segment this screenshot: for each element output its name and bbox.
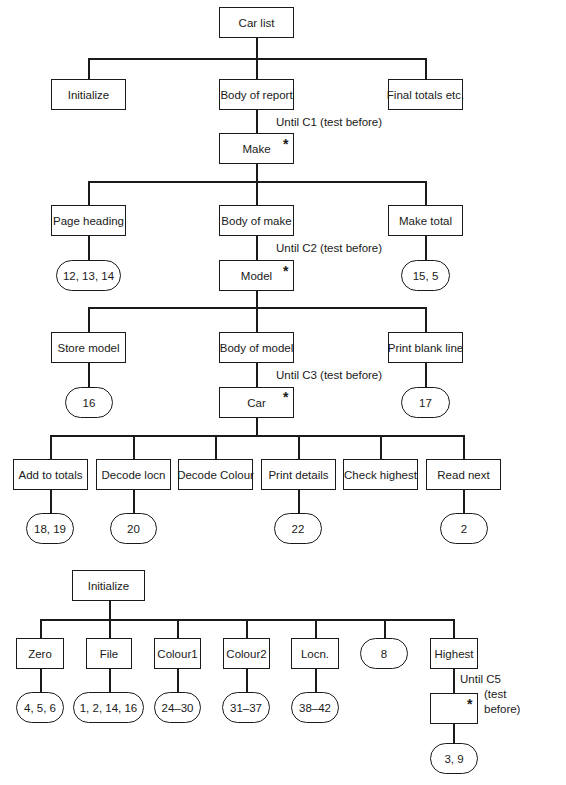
connector	[453, 668, 455, 693]
node-print-blank-line: Print blank line	[388, 332, 463, 363]
connector	[133, 489, 135, 513]
connector	[256, 291, 258, 332]
node-body-of-model: Body of model	[219, 332, 294, 363]
node-highest: Highest	[430, 638, 478, 669]
connector	[315, 668, 317, 693]
connector	[463, 489, 465, 513]
node-initialize-detail: Initialize	[72, 570, 145, 601]
node-zero: Zero	[16, 638, 64, 669]
connector	[133, 435, 135, 459]
iteration-star-icon: *	[467, 697, 472, 711]
connector	[425, 181, 427, 205]
oval-38-42: 38–42	[291, 692, 339, 723]
connector	[298, 435, 300, 459]
connector	[50, 435, 464, 437]
connector	[463, 435, 465, 459]
connector	[256, 236, 258, 260]
connector	[177, 668, 179, 693]
connector	[88, 362, 90, 387]
connector	[88, 58, 426, 60]
node-read-next: Read next	[426, 459, 501, 490]
node-file: File	[86, 638, 132, 669]
node-print-details: Print details	[261, 459, 336, 490]
node-colour1: Colour1	[154, 638, 201, 669]
connector	[453, 723, 455, 743]
oval-4-5-6: 4, 5, 6	[16, 692, 64, 723]
iteration-star-icon: *	[283, 390, 288, 404]
node-decode-locn: Decode locn	[96, 459, 171, 490]
connector	[425, 236, 427, 260]
oval-1-2-14-16: 1, 2, 14, 16	[73, 692, 144, 723]
connector	[40, 619, 42, 638]
connector	[315, 619, 317, 638]
oval-18-19: 18, 19	[26, 513, 74, 544]
connector	[177, 619, 179, 638]
connector	[298, 489, 300, 513]
connector	[88, 58, 90, 79]
connector	[88, 236, 90, 260]
oval-24-30: 24–30	[154, 692, 201, 723]
connector	[88, 181, 90, 205]
connector	[40, 668, 42, 693]
iteration-star-icon: *	[283, 264, 288, 278]
node-store-model: Store model	[51, 332, 126, 363]
connector	[256, 109, 258, 133]
connector	[425, 58, 427, 79]
oval-3-9: 3, 9	[430, 743, 478, 774]
oval-22: 22	[274, 513, 322, 544]
node-check-highest: Check highest	[343, 459, 418, 490]
connector	[256, 163, 258, 205]
node-decode-colour: Decode Colour	[178, 459, 253, 490]
connector	[453, 619, 455, 638]
node-make-total: Make total	[388, 205, 463, 236]
connector	[88, 307, 426, 309]
oval-15-5: 15, 5	[401, 260, 450, 291]
until-c3-note: Until C3 (test before)	[276, 369, 382, 381]
iteration-star-icon: *	[283, 137, 288, 151]
node-colour2: Colour2	[223, 638, 270, 669]
node-locn: Locn.	[291, 638, 339, 669]
node-add-to-totals: Add to totals	[13, 459, 88, 490]
node-body-of-make: Body of make	[219, 205, 294, 236]
connector	[256, 362, 258, 387]
node-page-heading: Page heading	[51, 205, 126, 236]
oval-8: 8	[360, 638, 408, 669]
node-final-totals: Final totals etc.	[388, 79, 463, 110]
connector	[109, 668, 111, 693]
until-c1-note: Until C1 (test before)	[276, 116, 382, 128]
connector	[88, 307, 90, 332]
oval-2: 2	[440, 513, 488, 544]
connector	[88, 181, 426, 183]
until-c2-note: Until C2 (test before)	[276, 242, 382, 254]
connector	[380, 435, 382, 459]
connector	[50, 489, 52, 513]
oval-20: 20	[110, 513, 157, 544]
oval-16: 16	[65, 387, 113, 418]
connector	[256, 417, 258, 436]
oval-12-13-14: 12, 13, 14	[56, 260, 121, 291]
until-c5-note-line3: before)	[484, 703, 520, 715]
connector	[246, 668, 248, 693]
connector	[425, 362, 427, 387]
oval-17: 17	[401, 387, 450, 418]
connector	[246, 619, 248, 638]
connector	[384, 619, 386, 638]
until-c5-note: Until C5	[460, 673, 501, 685]
until-c5-note-line2: (test	[484, 688, 506, 700]
node-initialize: Initialize	[51, 79, 126, 110]
node-body-of-report: Body of report	[219, 79, 294, 110]
oval-31-37: 31–37	[222, 692, 270, 723]
connector	[50, 435, 52, 459]
node-car-list: Car list	[219, 7, 294, 38]
connector	[215, 435, 217, 459]
connector	[425, 307, 427, 332]
